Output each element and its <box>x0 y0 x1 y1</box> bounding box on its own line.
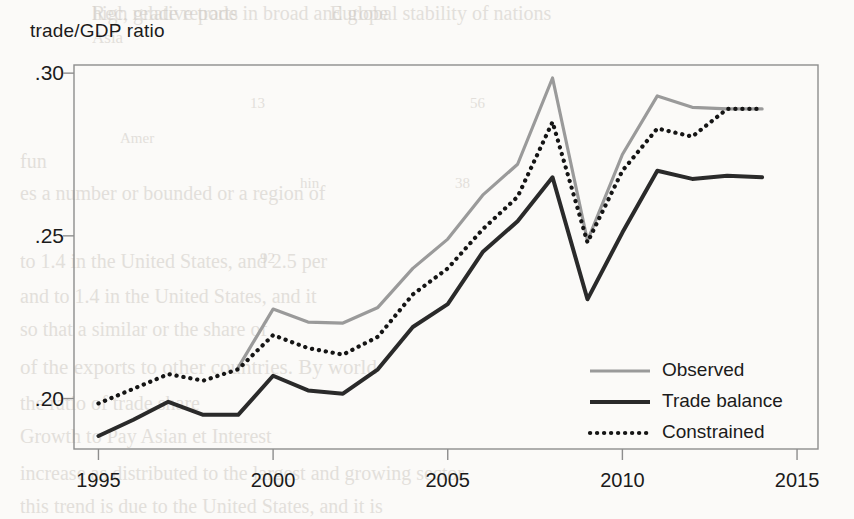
series-line-trade-balance <box>98 171 762 436</box>
data-series-group <box>98 78 762 436</box>
plot-frame <box>74 65 818 449</box>
series-line-observed <box>238 78 762 368</box>
chart-figure: Rec, grade reportsEuropeAsiaAmer1356hin3… <box>0 0 854 519</box>
legend-swatches <box>590 371 650 433</box>
plot-area <box>0 0 854 519</box>
series-line-constrained <box>98 109 762 404</box>
